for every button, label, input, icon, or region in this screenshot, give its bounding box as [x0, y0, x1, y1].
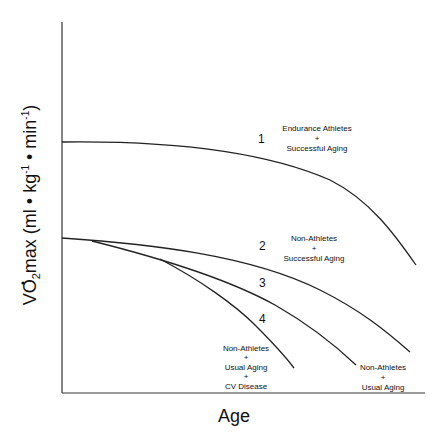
curve-4-number: 4 [259, 312, 266, 326]
curve-1-number: 1 [258, 132, 265, 146]
curve-4-label: Non-Athletes + Usual Aging + CV Disease [223, 344, 269, 391]
svg-text:Successful Aging: Successful Aging [284, 254, 345, 263]
curve-1-label: Endurance Athletes + Successful Aging [282, 124, 351, 153]
x-axis-title: Age [218, 406, 250, 426]
svg-text:Endurance Athletes: Endurance Athletes [282, 124, 351, 133]
curve-3-number: 3 [259, 276, 266, 290]
svg-text:+: + [244, 372, 249, 381]
curve-2 [62, 238, 410, 352]
y-axis-title: VO2max (ml • kg-1 • min-1) [20, 105, 42, 306]
svg-text:+: + [381, 373, 386, 382]
svg-text:Non-Athletes: Non-Athletes [223, 344, 269, 353]
svg-text:Usual Aging: Usual Aging [225, 363, 268, 372]
svg-text:Usual Aging: Usual Aging [362, 383, 405, 392]
svg-text:Non-Athletes: Non-Athletes [360, 363, 406, 372]
curve-2-label: Non-Athletes + Successful Aging [284, 234, 345, 263]
svg-text:+: + [244, 353, 249, 362]
curve-2-number: 2 [259, 239, 266, 253]
curve-3-label: Non-Athletes + Usual Aging [360, 363, 406, 392]
svg-text:+: + [312, 244, 317, 253]
v-dot-accent [21, 281, 24, 284]
svg-text:+: + [315, 134, 320, 143]
svg-text:Successful Aging: Successful Aging [287, 144, 348, 153]
svg-text:VO2max (ml • kg-1 • min-1): VO2max (ml • kg-1 • min-1) [20, 105, 42, 306]
svg-text:Non-Athletes: Non-Athletes [291, 234, 337, 243]
svg-text:CV Disease: CV Disease [225, 382, 268, 391]
vo2max-age-chart: 1 2 3 4 Endurance Athletes + Successful … [0, 0, 437, 439]
